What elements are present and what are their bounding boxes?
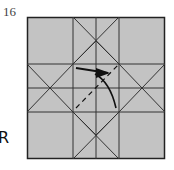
origami-diagram: [0, 0, 174, 170]
